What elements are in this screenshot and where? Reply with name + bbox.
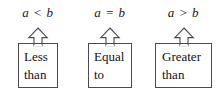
comparison-box-less: Less than [18,43,58,88]
box-line-2: to [94,66,128,84]
relation-label-less: a < b [18,6,58,20]
comparison-column-greater: a > b Greater than [155,0,212,96]
comparison-box-text-less: Less than [24,48,54,84]
comparison-box-text-greater: Greater than [162,48,208,84]
comparison-box-greater: Greater than [155,43,212,88]
comparison-symbols-figure: a < b Less than a = b Equal to [0,0,222,96]
relation-label-greater: a > b [155,6,212,20]
box-line-1: Less [24,48,54,66]
box-line-2: than [24,66,54,84]
box-line-1: Equal [94,48,128,66]
box-line-1: Greater [162,48,208,66]
box-line-2: than [162,66,208,84]
comparison-box-text-equal: Equal to [94,48,128,84]
comparison-box-equal: Equal to [88,43,132,88]
comparison-column-equal: a = b Equal to [88,0,132,96]
comparison-column-less: a < b Less than [18,0,58,96]
relation-label-equal: a = b [88,6,132,20]
